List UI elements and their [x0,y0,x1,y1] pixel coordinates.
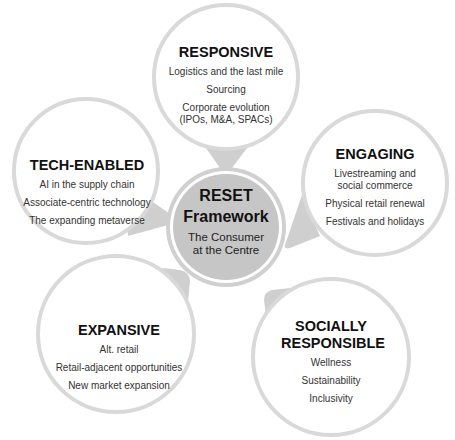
center-title-line1: RESET [168,186,284,206]
socially-responsible-item: Inclusivity [267,393,395,405]
tech-enabled-item: Associate-centric technology [20,197,154,209]
responsive-text: RESPONSIVE Logistics and the last mile S… [162,44,290,132]
socially-responsible-item: Sustainability [267,375,395,387]
expansive-item: Alt. retail [52,344,186,356]
engaging-item: Livestreaming and social commerce [332,168,418,192]
tech-enabled-title: TECH-ENABLED [20,157,154,174]
socially-responsible-text: SOCIALLY RESPONSIBLE Wellness Sustainabi… [267,318,395,411]
tech-enabled-item: The expanding metaverse [20,215,154,227]
center-text: RESET Framework The Consumer at the Cent… [168,186,284,257]
responsive-item: Sourcing [162,84,290,96]
socially-responsible-item: Wellness [267,357,395,369]
engaging-item: Physical retail renewal [318,198,432,210]
expansive-text: EXPANSIVE Alt. retail Retail-adjacent op… [52,322,186,398]
engaging-title: ENGAGING [318,146,432,163]
expansive-title: EXPANSIVE [52,322,186,339]
expansive-item: New market expansion [52,380,186,392]
tech-enabled-text: TECH-ENABLED AI in the supply chain Asso… [20,157,154,233]
responsive-item: Corporate evolution (IPOs, M&A, SPACs) [176,102,276,126]
center-subtitle: The Consumer at the Centre [184,231,268,257]
socially-responsible-title: SOCIALLY RESPONSIBLE [281,318,381,352]
engaging-text: ENGAGING Livestreaming and social commer… [318,146,432,234]
tech-enabled-item: AI in the supply chain [20,179,154,191]
responsive-item: Logistics and the last mile [162,66,290,78]
responsive-title: RESPONSIVE [162,44,290,61]
engaging-item: Festivals and holidays [318,216,432,228]
center-title-line2: Framework [168,206,284,228]
expansive-item: Retail-adjacent opportunities [52,362,186,374]
